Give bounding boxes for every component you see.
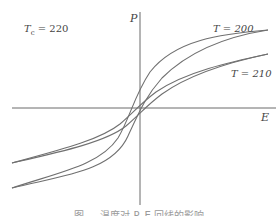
- hysteresis-figure: P E Tc = 220 T = 200 T = 210 图 … 温度对 P–E…: [0, 0, 279, 216]
- t210-label: T = 210: [231, 68, 272, 79]
- t200-label: T = 200: [213, 23, 254, 34]
- figure-caption: 图 … 温度对 P–E 回线的影响: [74, 209, 204, 216]
- tc-label: Tc = 220: [24, 23, 68, 37]
- p-axis-label: P: [129, 12, 138, 25]
- e-axis-label: E: [260, 111, 269, 124]
